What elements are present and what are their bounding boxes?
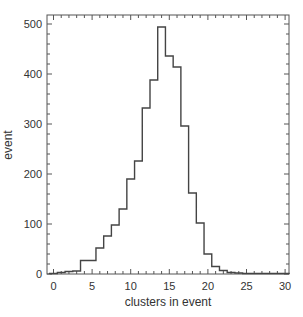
y-tick-label: 200 (24, 168, 42, 180)
y-tick-label: 100 (24, 218, 42, 230)
y-tick-label: 500 (24, 18, 42, 30)
x-tick-label: 5 (89, 280, 95, 292)
y-axis-label: event (1, 130, 15, 160)
x-tick-label: 20 (202, 280, 214, 292)
y-tick-label: 0 (36, 268, 42, 280)
histogram-chart: 051015202530 0100200300400500 clusters i… (0, 0, 303, 317)
x-tick-label: 30 (279, 280, 291, 292)
y-tick-labels: 0100200300400500 (24, 18, 42, 280)
plot-frame (47, 15, 289, 274)
y-tick-label: 300 (24, 118, 42, 130)
x-axis-label: clusters in event (125, 295, 212, 309)
x-tick-label: 10 (125, 280, 137, 292)
axis-ticks (47, 15, 289, 274)
x-tick-labels: 051015202530 (50, 280, 291, 292)
x-tick-label: 0 (50, 280, 56, 292)
x-tick-label: 15 (163, 280, 175, 292)
x-tick-label: 25 (240, 280, 252, 292)
y-tick-label: 400 (24, 68, 42, 80)
histogram-line (50, 27, 289, 274)
